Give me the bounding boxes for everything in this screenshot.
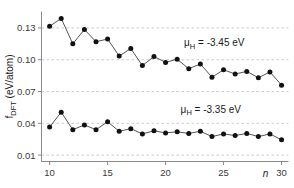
y-axis-title-subscript: DFT xyxy=(9,101,18,116)
data-point xyxy=(233,72,238,77)
data-point xyxy=(221,67,226,72)
data-point xyxy=(221,131,226,136)
data-point xyxy=(244,69,249,74)
x-tick-label: 30 xyxy=(276,167,287,178)
data-point xyxy=(105,119,110,124)
data-point xyxy=(209,75,214,80)
data-point xyxy=(175,129,180,134)
series-annotation: μH = -3.35 eV xyxy=(181,104,242,118)
data-point xyxy=(151,128,156,133)
y-tick-label: 0.10 xyxy=(17,54,36,65)
data-series xyxy=(47,16,284,88)
data-point xyxy=(279,83,284,88)
data-point xyxy=(256,75,261,80)
y-tick-label: 0.13 xyxy=(17,22,36,33)
data-point xyxy=(198,129,203,134)
data-point xyxy=(82,27,87,32)
data-point xyxy=(279,137,284,142)
tick-marks xyxy=(38,28,282,165)
y-tick-label: 0.04 xyxy=(17,118,36,129)
data-point xyxy=(186,131,191,136)
annotation-value: = -3.35 eV xyxy=(192,104,242,115)
x-tick-label: 20 xyxy=(160,167,171,178)
data-point xyxy=(105,37,110,42)
data-point xyxy=(151,54,156,59)
y-tick-label: 0.07 xyxy=(17,86,36,97)
data-point xyxy=(233,133,238,138)
axis-lines xyxy=(42,12,289,162)
data-point xyxy=(70,127,75,132)
data-point xyxy=(82,122,87,127)
y-axis-title-unit: (eV/atom) xyxy=(4,54,15,101)
y-tick-labels: 0.010.040.070.100.13 xyxy=(17,22,36,160)
data-point xyxy=(267,131,272,136)
chart-svg: 0.010.040.070.100.13 1015202530 μH = -3.… xyxy=(0,0,294,188)
data-point xyxy=(256,134,261,139)
data-point xyxy=(128,46,133,51)
annotation-value: = -3.45 eV xyxy=(195,37,245,48)
data-point xyxy=(59,110,64,115)
chart-figure: 0.010.040.070.100.13 1015202530 μH = -3.… xyxy=(0,0,294,188)
data-point xyxy=(186,66,191,71)
data-point xyxy=(209,134,214,139)
data-point xyxy=(163,130,168,135)
data-point xyxy=(47,24,52,29)
axis-titles: fDFT (eV/atom)n xyxy=(4,54,269,178)
y-tick-label: 0.01 xyxy=(17,150,36,161)
data-point xyxy=(128,126,133,131)
data-series xyxy=(47,110,284,143)
data-point xyxy=(140,131,145,136)
data-point xyxy=(117,129,122,134)
grid-lines xyxy=(42,28,289,155)
data-point xyxy=(94,127,99,132)
data-point xyxy=(59,16,64,21)
data-point xyxy=(163,60,168,65)
data-point xyxy=(175,57,180,62)
data-point xyxy=(198,61,203,66)
data-point xyxy=(244,131,249,136)
data-point xyxy=(117,54,122,59)
x-tick-label: 15 xyxy=(102,167,113,178)
x-tick-label: 10 xyxy=(44,167,55,178)
data-point xyxy=(70,41,75,46)
data-point xyxy=(47,125,52,130)
x-tick-label: 25 xyxy=(218,167,229,178)
data-point xyxy=(140,63,145,68)
data-point xyxy=(267,69,272,74)
data-point xyxy=(94,39,99,44)
y-axis-title: fDFT (eV/atom) xyxy=(4,54,18,118)
series-annotation: μH = -3.45 eV xyxy=(184,37,245,51)
x-axis-title: n xyxy=(263,168,269,179)
x-tick-labels: 1015202530 xyxy=(44,167,287,178)
